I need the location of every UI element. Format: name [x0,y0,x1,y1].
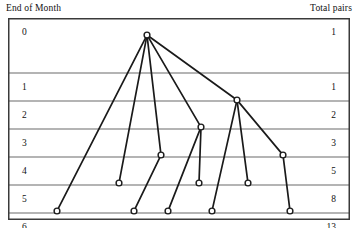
rabbit-pair-node-n5b [196,180,202,186]
rabbit-pair-node-n4a [158,152,164,158]
tree-edge-n0-n5a [120,38,147,179]
fibonacci-rabbit-tree-figure: End of Month Total pairs 0123456 1123581… [0,0,358,228]
tree-edges [59,37,290,208]
tree-edge-n3-n6c [169,130,200,208]
tree-chart-area: 0123456 11235813 [8,18,350,220]
rabbit-pair-node-n6d [209,208,215,214]
total-pairs-value-month-6: 13 [327,222,337,228]
total-pairs-value-month-3: 3 [331,138,336,148]
total-pairs-value-month-4: 5 [331,166,336,176]
total-pairs-value-month-0: 1 [331,27,336,37]
tree-edge-n0-n6a [59,38,146,208]
month-label-5: 5 [22,194,27,204]
tree-edge-n4a-n6b [135,158,159,208]
tree-graphic [8,18,350,220]
rabbit-pair-node-n6b [131,208,137,214]
rabbit-pair-node-n3 [198,124,204,130]
total-pairs-value-month-2: 2 [331,110,336,120]
tree-edge-n2-n6d [213,103,237,207]
total-pairs-value-month-5: 8 [331,194,336,204]
tree-edge-n0-n2 [150,37,234,98]
total-pairs-value-month-1: 1 [331,82,336,92]
month-label-1: 1 [22,82,27,92]
tree-edge-n3-n5b [199,130,201,179]
rabbit-pair-node-n6e [287,208,293,214]
tree-edge-n4b-n6e [283,158,289,207]
rabbit-pair-node-n6c [165,208,171,214]
chart-border [9,19,350,220]
month-label-6: 6 [22,222,27,228]
rabbit-pair-node-n4b [280,152,286,158]
month-label-3: 3 [22,138,27,148]
month-label-0: 0 [22,27,27,37]
month-gridlines [9,73,349,213]
end-of-month-header: End of Month [6,3,61,14]
total-pairs-header: Total pairs [310,3,352,14]
tree-edge-n2-n5c [237,103,247,179]
rabbit-pair-node-n5c [245,180,251,186]
rabbit-pair-node-n5a [116,180,122,186]
tree-edge-n2-n4b [239,103,281,153]
rabbit-pair-node-n2 [234,97,240,103]
month-label-2: 2 [22,110,27,120]
rabbit-pair-node-n0 [144,32,150,38]
month-label-4: 4 [22,166,27,176]
rabbit-pair-node-n6a [54,208,60,214]
